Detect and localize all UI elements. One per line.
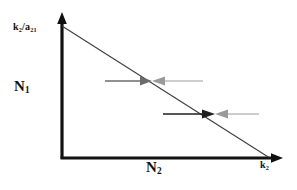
x-axis-label: N2 <box>146 160 162 175</box>
axes-group <box>57 12 283 163</box>
y-intercept-base: k <box>13 21 19 32</box>
lower-arrow-left-head <box>215 109 228 118</box>
x-axis-arrowhead <box>271 153 283 163</box>
y-axis-label-sub: 1 <box>25 85 30 95</box>
x-axis-label-sub: 2 <box>157 166 162 176</box>
isocline-figure: k2/a21 N1 N2 k2 <box>0 0 297 190</box>
y-axis-arrowhead <box>57 12 67 24</box>
y-axis-label-base: N <box>14 78 25 94</box>
upper-arrow-right-head <box>140 77 152 86</box>
isocline-group <box>62 26 269 158</box>
y-intercept-sub2: 21 <box>30 26 37 33</box>
y-intercept-label: k2/a21 <box>13 22 37 32</box>
x-intercept-label: k2 <box>260 160 269 170</box>
lower-arrow-right-head <box>202 109 215 118</box>
lower-arrow-pair <box>163 109 259 118</box>
x-axis-label-base: N <box>146 159 157 175</box>
y-axis-label: N1 <box>14 79 30 94</box>
x-intercept-sub: 2 <box>266 164 269 171</box>
x-intercept-base: k <box>260 159 266 170</box>
isocline-line <box>62 26 269 158</box>
y-intercept-sub: 2 <box>19 26 22 33</box>
